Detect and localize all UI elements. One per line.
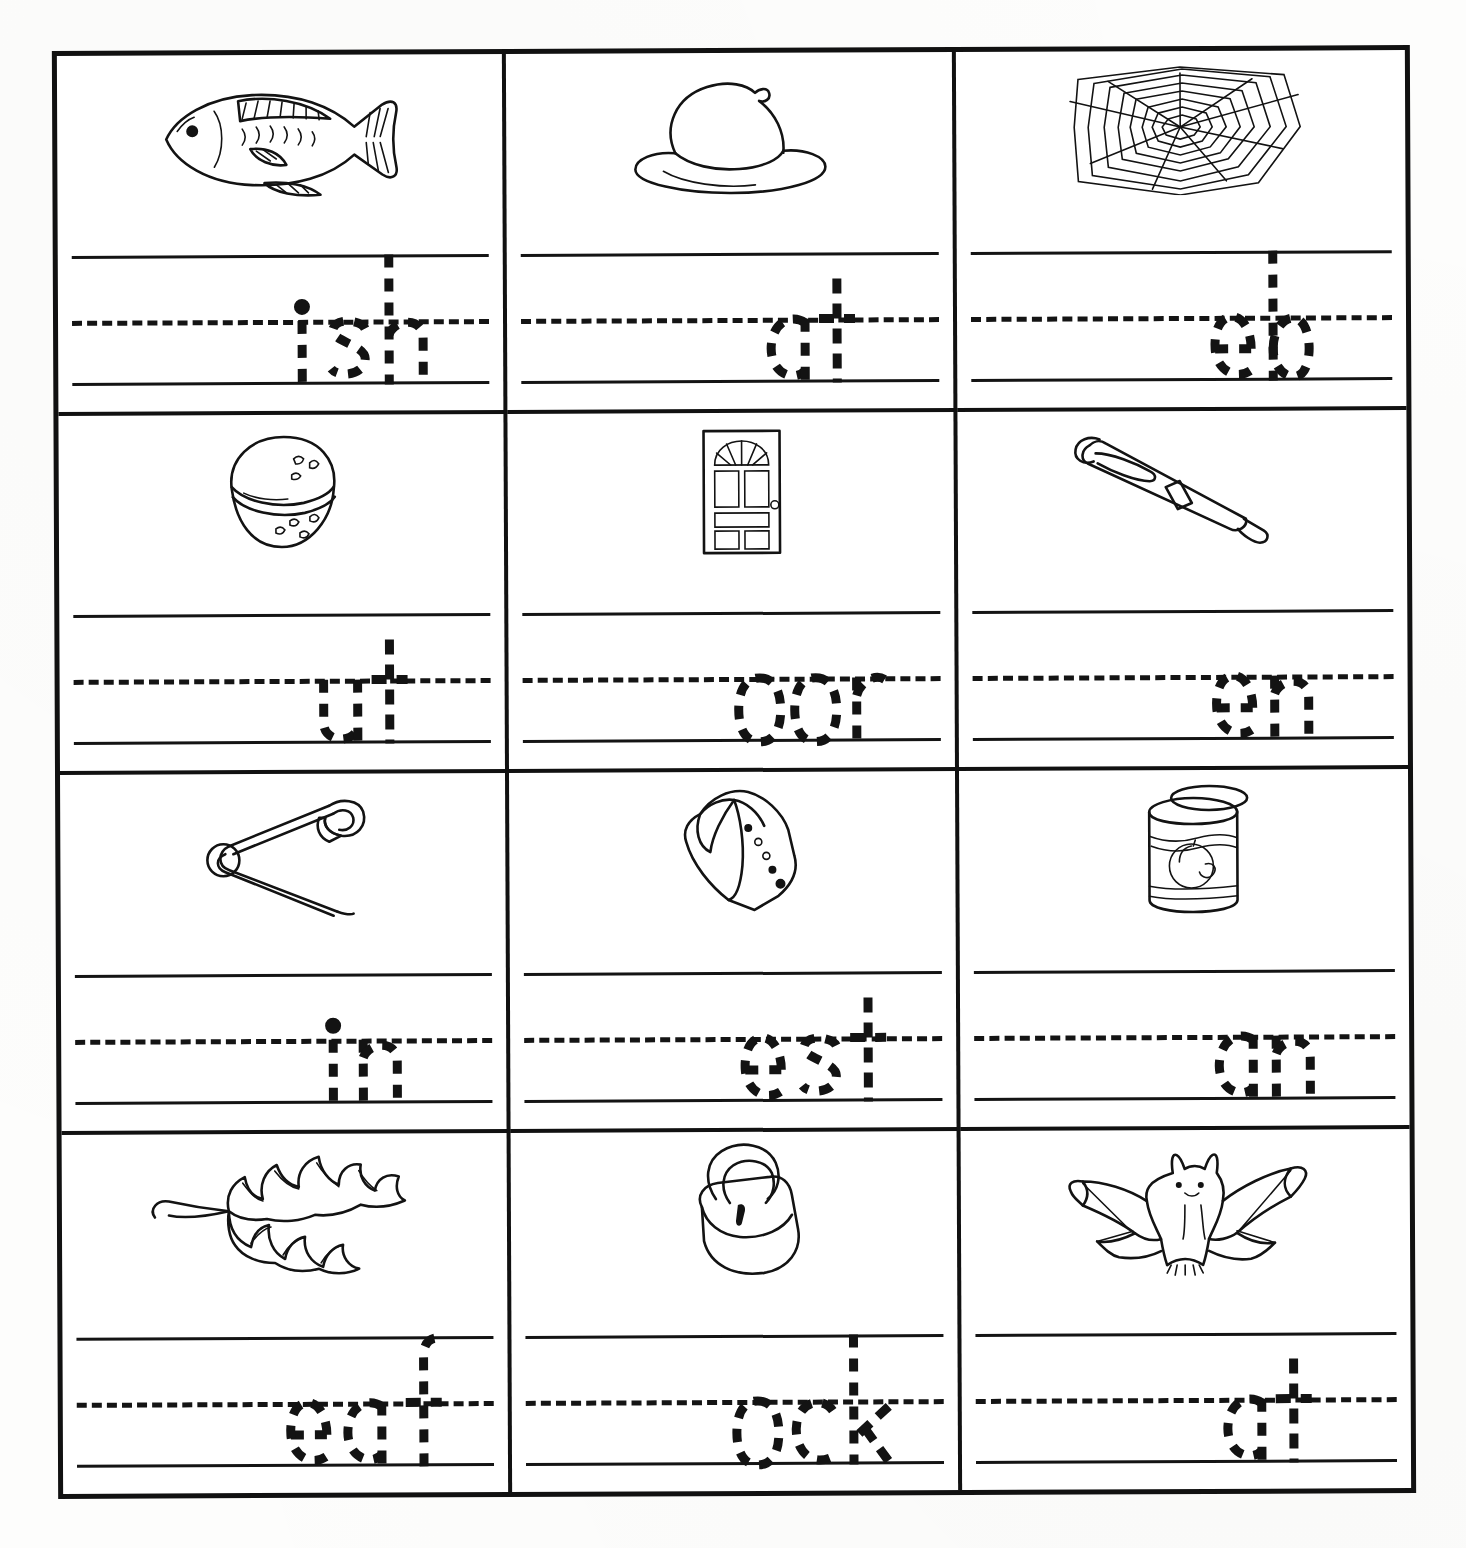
dotted-letter-o[interactable]: [789, 677, 843, 742]
worksheet-cell[interactable]: [508, 412, 959, 773]
dotted-letter-h[interactable]: [377, 254, 432, 384]
traced-word-ut[interactable]: [73, 613, 491, 745]
worksheet-cell[interactable]: [509, 771, 960, 1132]
handwriting-lines: [526, 1334, 944, 1466]
handwriting-lines: [76, 1336, 494, 1468]
dotted-letter-o[interactable]: [733, 677, 787, 742]
dotted-letter-s[interactable]: [321, 319, 375, 384]
traced-word-en[interactable]: [972, 609, 1394, 741]
handwriting-lines: [974, 969, 1396, 1101]
dotted-letter-t[interactable]: [369, 639, 409, 743]
door-icon: [508, 416, 954, 568]
worksheet-cell[interactable]: [957, 410, 1408, 771]
dotted-letter-n[interactable]: [1266, 1034, 1320, 1099]
dotted-letter-e[interactable]: [1208, 675, 1262, 740]
handwriting-lines: [521, 252, 939, 384]
nut-icon: [58, 418, 504, 570]
handwriting-lines: [72, 254, 490, 386]
traced-word-ock[interactable]: [526, 1334, 944, 1466]
worksheet-cell[interactable]: [58, 413, 509, 774]
spider-web-icon: [956, 54, 1406, 206]
worksheet-page: [0, 0, 1466, 1548]
dotted-letter-a[interactable]: [1218, 1398, 1272, 1463]
handwriting-lines: [524, 971, 942, 1103]
dotted-letter-a[interactable]: [338, 1401, 392, 1466]
traced-word-in[interactable]: [75, 973, 493, 1105]
handwriting-lines: [975, 1332, 1397, 1464]
handwriting-lines: [523, 611, 941, 743]
worksheet-cell[interactable]: [62, 1132, 513, 1493]
traced-word-est[interactable]: [524, 971, 942, 1103]
pen-icon: [957, 414, 1407, 566]
handwriting-lines: [972, 609, 1394, 741]
dotted-letter-s[interactable]: [792, 1036, 846, 1101]
traced-word-ish[interactable]: [72, 254, 490, 386]
dotted-letter-b[interactable]: [1262, 250, 1317, 380]
dotted-letter-a[interactable]: [1210, 1034, 1264, 1099]
worksheet-cell[interactable]: [60, 773, 511, 1134]
dotted-letter-i[interactable]: [289, 319, 319, 384]
bat-icon: [960, 1133, 1410, 1285]
dotted-letter-n[interactable]: [352, 1038, 406, 1103]
hat-icon: [506, 56, 952, 208]
dotted-letter-r[interactable]: [845, 676, 889, 741]
dotted-letter-k[interactable]: [843, 1334, 898, 1464]
traced-word-an[interactable]: [974, 969, 1396, 1101]
worksheet-cell[interactable]: [511, 1131, 962, 1492]
worksheet-cell[interactable]: [959, 769, 1410, 1130]
dotted-letter-n[interactable]: [1264, 674, 1318, 739]
traced-word-eb[interactable]: [970, 250, 1392, 382]
traced-word-at[interactable]: [521, 252, 939, 384]
fish-icon: [57, 58, 503, 210]
leaf-icon: [62, 1136, 508, 1288]
worksheet-cell[interactable]: [956, 50, 1407, 411]
dotted-letter-e[interactable]: [736, 1036, 790, 1101]
dotted-letter-o[interactable]: [731, 1400, 785, 1465]
vest-icon: [509, 775, 955, 927]
can-icon: [959, 773, 1409, 925]
traced-word-oor[interactable]: [523, 611, 941, 743]
dotted-letter-a[interactable]: [761, 317, 815, 382]
dotted-letter-e[interactable]: [1206, 315, 1260, 380]
dotted-letter-t[interactable]: [848, 997, 888, 1101]
dotted-letter-i[interactable]: [320, 1038, 350, 1103]
handwriting-lines: [73, 613, 491, 745]
padlock-icon: [511, 1135, 957, 1287]
dotted-letter-e[interactable]: [282, 1402, 336, 1467]
handwriting-lines: [75, 973, 493, 1105]
traced-word-eaf[interactable]: [76, 1336, 494, 1468]
dotted-letter-t[interactable]: [817, 278, 857, 382]
dotted-letter-t[interactable]: [1274, 1358, 1314, 1462]
safety-pin-icon: [60, 777, 506, 929]
worksheet-cell[interactable]: [506, 52, 957, 413]
dotted-letter-f[interactable]: [393, 1336, 448, 1466]
worksheet-cell[interactable]: [960, 1129, 1411, 1490]
dotted-letter-u[interactable]: [314, 679, 368, 744]
dotted-letter-c[interactable]: [787, 1400, 841, 1465]
handwriting-lines: [970, 250, 1392, 382]
worksheet-grid: [52, 45, 1416, 1499]
worksheet-cell[interactable]: [57, 54, 508, 415]
traced-word-at[interactable]: [975, 1332, 1397, 1464]
